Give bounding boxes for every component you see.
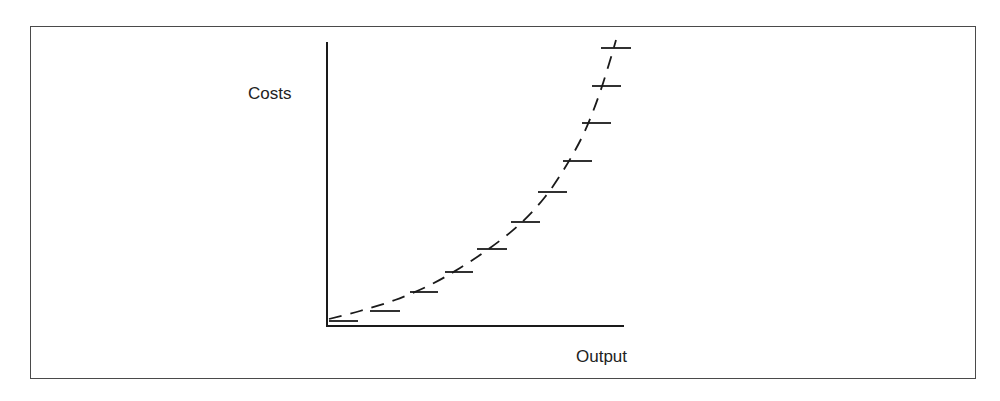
cost-curve [329, 40, 616, 319]
x-axis-label: Output [576, 347, 627, 367]
axes [326, 42, 624, 326]
y-axis-label: Costs [248, 84, 291, 104]
step-marks [329, 48, 631, 321]
cost-curve-diagram [0, 0, 1000, 401]
